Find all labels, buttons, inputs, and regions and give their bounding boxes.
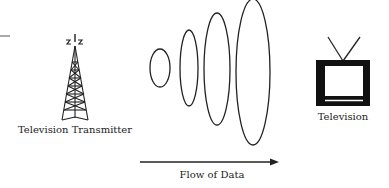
wave-2 — [180, 30, 198, 106]
flow-arrow — [140, 159, 279, 166]
tv-broadcast-diagram: Television Transmitter Television Flow o… — [0, 0, 389, 188]
broadcast-tower-icon — [62, 34, 88, 120]
diagram-graphics — [0, 0, 389, 188]
transmitter-label: Television Transmitter — [18, 124, 132, 135]
television-label: Television — [318, 111, 369, 122]
wave-4 — [236, 0, 270, 145]
television-icon — [316, 37, 370, 106]
signal-waves — [150, 0, 270, 145]
wave-3 — [204, 13, 230, 125]
wave-1 — [150, 49, 170, 87]
flow-label: Flow of Data — [180, 169, 245, 180]
